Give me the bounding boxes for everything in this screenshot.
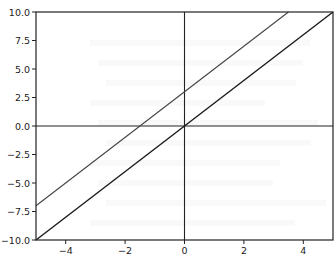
- background-texture: [106, 140, 311, 146]
- y-tick-label: 0.0: [15, 121, 30, 132]
- y-tick-label: −10.0: [1, 235, 30, 246]
- background-texture: [106, 200, 326, 206]
- background-texture: [90, 100, 265, 106]
- y-axis-ticks: 10.07.55.02.50.0−2.5−5.0−7.5−10.0: [1, 7, 36, 246]
- background-texture: [106, 80, 296, 86]
- x-tick-label: 2: [241, 245, 247, 256]
- y-tick-label: −2.5: [7, 149, 30, 160]
- y-tick-label: −7.5: [7, 206, 30, 217]
- background-texture: [98, 120, 318, 126]
- background-texture: [98, 60, 303, 66]
- y-tick-label: −5.0: [7, 178, 30, 189]
- background-texture: [90, 220, 295, 226]
- line-chart: −4−2024 10.07.55.02.50.0−2.5−5.0−7.5−10.…: [0, 0, 336, 258]
- background-texture: [90, 40, 310, 46]
- x-tick-label: −2: [118, 245, 132, 256]
- x-tick-label: 0: [181, 245, 187, 256]
- y-tick-label: 10.0: [9, 7, 30, 18]
- y-tick-label: 2.5: [15, 92, 30, 103]
- x-axis-ticks: −4−2024: [59, 240, 307, 256]
- background-bleed-text: [90, 40, 326, 226]
- y-tick-label: 5.0: [15, 64, 30, 75]
- x-tick-label: 4: [300, 245, 306, 256]
- background-texture: [98, 180, 273, 186]
- x-tick-label: −4: [59, 245, 73, 256]
- y-tick-label: 7.5: [15, 35, 30, 46]
